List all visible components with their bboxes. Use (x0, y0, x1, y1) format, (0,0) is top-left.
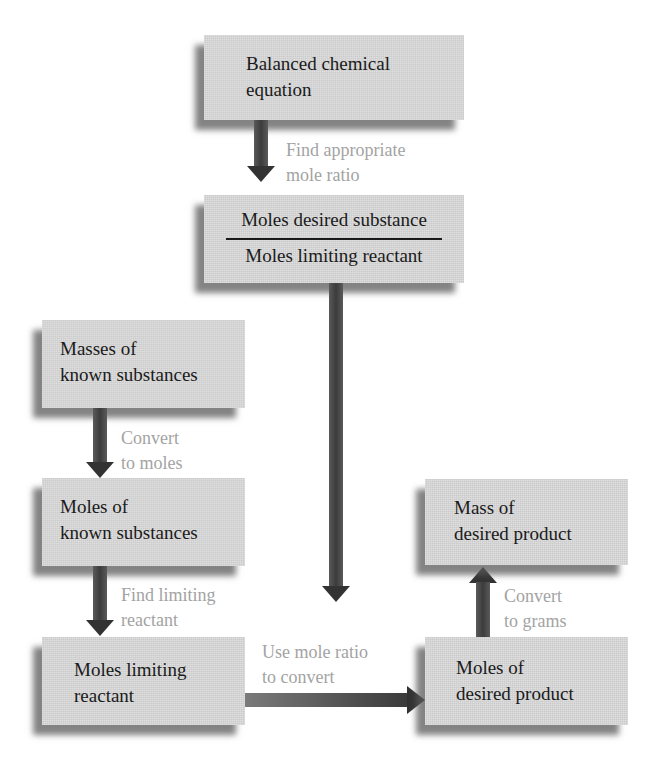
arrow-down-icon (322, 586, 350, 602)
box-text-line1: Moles limiting (74, 657, 186, 683)
label-line1: Use mole ratio (262, 640, 368, 665)
fraction-denominator: Moles limiting reactant (204, 243, 464, 269)
box-balanced-chemical-equation: Balanced chemical equation (204, 35, 464, 120)
label-line2: mole ratio (286, 163, 405, 188)
fraction-numerator: Moles desired substance (204, 207, 464, 233)
label-line1: Find limiting (121, 583, 216, 608)
box-masses-known-substances: Masses of known substances (42, 320, 245, 408)
box-moles-limiting-reactant: Moles limiting reactant (42, 637, 245, 725)
box-text-line1: Moles of (60, 494, 198, 520)
arrow-down-shaft (93, 408, 107, 464)
box-text-line2: desired product (456, 681, 574, 707)
box-text-line2: reactant (74, 683, 186, 709)
box-text-line1: Moles of (456, 655, 574, 681)
label-line1: Convert (121, 426, 183, 451)
arrow-down-shaft (93, 566, 107, 622)
label-convert-to-grams: Convert to grams (504, 584, 567, 634)
box-text-line1: Balanced chemical (246, 51, 390, 77)
label-convert-to-moles: Convert to moles (121, 426, 183, 476)
box-mole-ratio-fraction: Moles desired substance Moles limiting r… (204, 195, 464, 283)
arrow-right-shaft (245, 693, 409, 707)
box-text-line2: desired product (454, 521, 572, 547)
box-mass-desired-product: Mass of desired product (425, 479, 628, 565)
box-text-line1: Masses of (60, 336, 198, 362)
label-use-mole-ratio: Use mole ratio to convert (262, 640, 368, 690)
arrow-down-icon (86, 620, 114, 636)
label-line2: reactant (121, 608, 216, 633)
label-find-limiting-reactant: Find limiting reactant (121, 583, 216, 633)
arrow-down-shaft (254, 120, 268, 168)
box-text-line2: known substances (60, 362, 198, 388)
box-moles-desired-product: Moles of desired product (425, 637, 628, 725)
box-text-line2: equation (246, 77, 390, 103)
arrow-down-icon (247, 166, 275, 182)
box-text-line1: Mass of (454, 495, 572, 521)
label-line2: to grams (504, 609, 567, 634)
arrow-up-icon (469, 567, 497, 583)
arrow-right-icon (407, 686, 425, 714)
arrow-down-shaft (329, 283, 343, 588)
arrow-up-shaft (476, 582, 490, 637)
arrow-down-icon (86, 462, 114, 478)
label-line1: Find appropriate (286, 138, 405, 163)
label-line1: Convert (504, 584, 567, 609)
label-line2: to moles (121, 451, 183, 476)
fraction-bar (226, 238, 442, 240)
label-line2: to convert (262, 665, 368, 690)
box-moles-known-substances: Moles of known substances (42, 478, 245, 566)
box-text-line2: known substances (60, 520, 198, 546)
label-find-mole-ratio: Find appropriate mole ratio (286, 138, 405, 188)
